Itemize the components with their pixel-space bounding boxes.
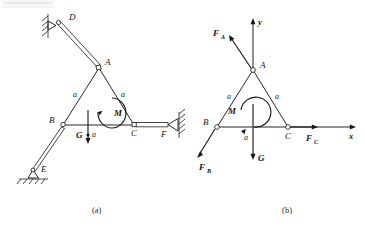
label-point-e: E (40, 164, 47, 174)
figure-canvas: D A B C a a a (0, 0, 366, 235)
fbd-label-dim-a-right: a (275, 92, 279, 101)
force-vector-fb (197, 129, 215, 158)
axis-y (251, 18, 256, 68)
fbd-label-point-c: C (285, 131, 292, 141)
joint-c (132, 123, 136, 127)
support-d-wall (42, 14, 56, 38)
member-cf (136, 123, 168, 127)
fbd-label-dim-a-bottom: a (244, 133, 248, 142)
label-dim-a-bottom: a (92, 130, 96, 139)
weight-vector-a (86, 110, 91, 144)
label-dim-a-right: a (121, 90, 125, 99)
support-f-wall (168, 109, 185, 138)
fbd-label-point-b: B (203, 117, 209, 127)
label-point-d: D (68, 12, 76, 22)
diagram-b: A B C a a a y x F A F (197, 17, 356, 174)
joint-d (56, 20, 60, 24)
label-force-fa-sub: A (220, 33, 225, 40)
label-force-fc: F (305, 133, 312, 143)
label-point-a: A (104, 57, 111, 67)
label-axis-y: y (257, 17, 262, 27)
label-force-fb-sub: B (206, 167, 211, 174)
member-be (32, 127, 65, 172)
joint-b (61, 122, 65, 126)
caption-b: (b) (282, 205, 292, 215)
label-moment-a: M (113, 108, 123, 118)
joint-a (96, 65, 101, 70)
label-point-f: F (160, 129, 167, 139)
label-force-fb: F (198, 162, 205, 172)
fbd-joint-b (215, 125, 220, 130)
fbd-label-point-a: A (259, 60, 266, 70)
fbd-label-dim-a-left: a (227, 92, 231, 101)
label-moment-b: M (227, 106, 237, 116)
label-point-c: C (131, 128, 138, 138)
force-vector-fa (229, 35, 251, 68)
caption-a: (a) (92, 205, 101, 215)
fbd-joint-c (286, 125, 291, 130)
label-point-b: B (49, 115, 55, 125)
label-force-g: G (258, 153, 265, 163)
moment-arrow-b (241, 97, 271, 134)
force-vector-fc (290, 125, 318, 130)
label-force-fa: F (212, 28, 219, 38)
fbd-joint-a (251, 68, 256, 73)
label-force-fc-sub: C (314, 138, 319, 145)
member-da (57, 21, 100, 67)
label-axis-x: x (348, 131, 354, 141)
centroid-marker-a (87, 134, 90, 137)
diagram-a: D A B C a a a (17, 12, 185, 184)
force-vector-g (251, 104, 256, 160)
label-dim-a-left: a (73, 90, 77, 99)
label-weight-a: G (76, 130, 83, 140)
